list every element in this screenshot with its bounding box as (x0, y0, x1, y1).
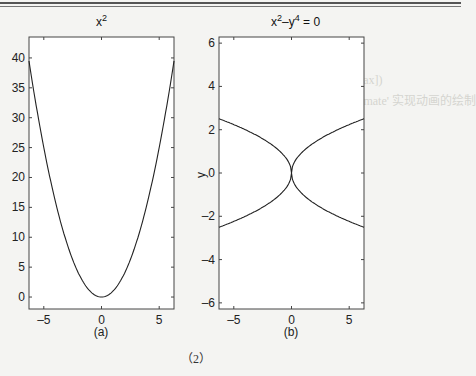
ytick-label: 2 (208, 123, 215, 137)
xtick-label: 5 (156, 313, 163, 327)
chart-b-ylabel: y (194, 172, 208, 178)
chart-a-axes (29, 37, 174, 309)
chart-b: x2–y4 = 0 –6–4–20246 –505 y (b) (194, 13, 364, 339)
ytick-label: –4 (202, 253, 216, 267)
ytick-label: 20 (12, 170, 26, 184)
ytick-label: –6 (202, 296, 216, 310)
ytick-label: –2 (202, 209, 216, 223)
ytick-label: 6 (208, 36, 215, 50)
ytick-label: 25 (12, 141, 26, 155)
xtick-label: 5 (346, 313, 353, 327)
ytick-label: 5 (18, 260, 25, 274)
ytick-label: 0 (208, 166, 215, 180)
ytick-label: 10 (12, 230, 26, 244)
xtick-label: –5 (37, 313, 51, 327)
ytick-label: 4 (208, 79, 215, 93)
figure-caption: （2） (181, 349, 211, 367)
chart-a-panel-label: (a) (94, 325, 109, 339)
ytick-label: 0 (18, 290, 25, 304)
ytick-label: 30 (12, 111, 26, 125)
chart-b-panel-label: (b) (284, 325, 299, 339)
chart-a: x2 0510152025303540 –505 (a) (12, 13, 174, 339)
chart-a-title: x2 (96, 13, 107, 29)
xtick-label: –5 (227, 313, 241, 327)
ytick-label: 40 (12, 51, 26, 65)
ytick-label: 15 (12, 200, 26, 214)
ytick-label: 35 (12, 81, 26, 95)
chart-b-title: x2–y4 = 0 (271, 13, 320, 29)
